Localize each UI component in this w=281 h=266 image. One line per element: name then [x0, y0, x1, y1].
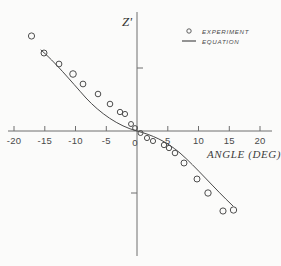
experiment-markers — [28, 33, 236, 214]
x-tick-label-minus5: -5 — [102, 135, 111, 146]
x-axis-title: ANGLE (DEG) — [206, 148, 281, 161]
legend-circle-marker-icon — [187, 29, 191, 33]
legend-label-experiment: EXPERIMENT — [202, 28, 250, 35]
x-tick-label-zero: 0 — [132, 137, 138, 148]
x-tick-label-minus15: -15 — [37, 135, 52, 146]
legend-label-equation: EQUATION — [202, 38, 239, 45]
scatter-plot: -20 -15 -10 -5 0 5 10 15 20 Z' ANGLE (DE… — [0, 0, 281, 266]
x-tick-label-minus20: -20 — [7, 135, 22, 146]
x-tick-label-10: 10 — [193, 135, 204, 146]
x-tick-label-minus10: -10 — [68, 135, 83, 146]
x-tick-label-15: 15 — [224, 135, 235, 146]
x-tick-label-20: 20 — [254, 135, 265, 146]
chart-legend: EXPERIMENT EQUATION — [182, 28, 250, 45]
y-axis-title: Z' — [122, 14, 132, 29]
chart-figure: -20 -15 -10 -5 0 5 10 15 20 Z' ANGLE (DE… — [0, 0, 281, 266]
